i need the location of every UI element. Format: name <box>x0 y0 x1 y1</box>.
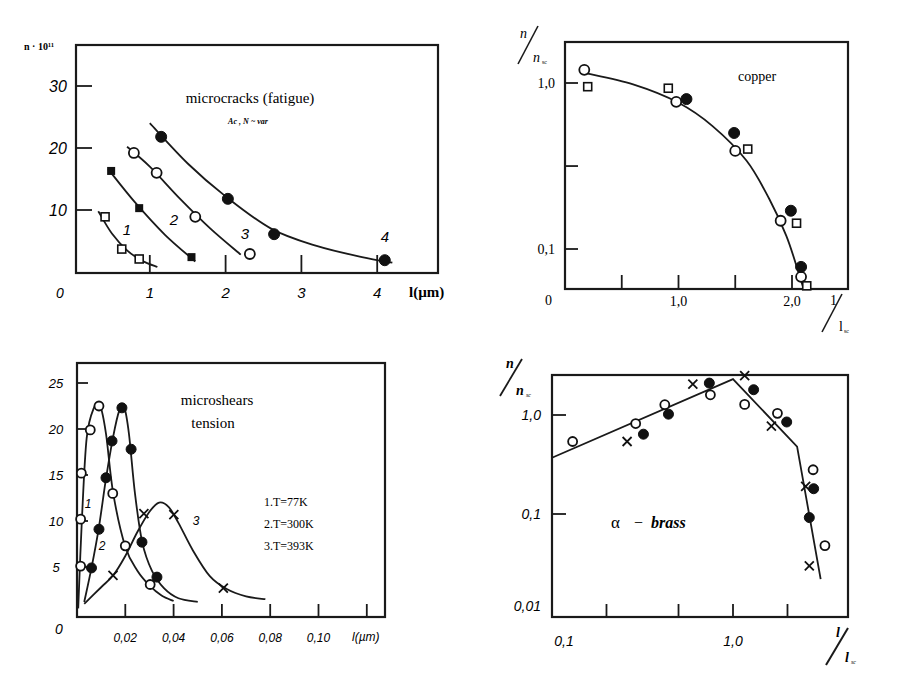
marker-open-circle <box>579 65 589 75</box>
curve-label: 2 <box>98 539 106 553</box>
tick-label: 25 <box>48 376 64 391</box>
axis-ticks <box>565 83 792 289</box>
tick-label: 1,0 <box>538 76 556 91</box>
marker-open-circle <box>121 541 130 550</box>
svg-text:n: n <box>516 383 524 398</box>
svg-text:n: n <box>506 356 514 371</box>
marker-cross <box>767 422 776 431</box>
legend-item-2: 2.T=300K <box>264 517 314 531</box>
svg-text:l: l <box>836 625 840 640</box>
curve-label: 1 <box>85 497 92 511</box>
chart-microcracks: 01234102030 1234 n · 10¹¹ microcracks (f… <box>0 41 444 301</box>
tick-label: 1 <box>146 284 154 301</box>
tick-label: 1,0 <box>522 407 542 423</box>
tick-label: 1,0 <box>670 294 688 309</box>
x-axis-label: l l sc <box>826 625 856 665</box>
figure-canvas: 01234102030 1234 n · 10¹¹ microcracks (f… <box>0 0 899 696</box>
svg-text:n: n <box>520 26 527 41</box>
plot-frame <box>565 42 848 289</box>
curve-label: 1 <box>123 221 131 238</box>
marker-open-circle <box>146 580 155 589</box>
marker-filled-circle <box>729 127 740 138</box>
origin-label: 0 <box>56 285 64 301</box>
marker-open-square <box>664 84 672 92</box>
marker-open-circle <box>190 212 200 222</box>
marker-open-circle <box>77 469 86 478</box>
tick-label: 30 <box>49 78 67 95</box>
marker-open-circle <box>568 437 577 446</box>
tick-label: 0,02 <box>114 631 138 645</box>
marker-filled-circle <box>94 524 104 534</box>
marker-filled-circle <box>156 131 167 142</box>
fit-curves <box>78 403 265 609</box>
svg-text:brass: brass <box>651 514 686 531</box>
marker-open-circle <box>86 425 95 434</box>
marker-filled-circle <box>809 484 819 494</box>
chart-copper: 1,02,00,11,0 copper 0 n n sc 1 l sc <box>518 26 849 334</box>
marker-cross <box>688 380 697 389</box>
tick-label: 0,04 <box>162 631 186 645</box>
marker-cross <box>623 437 632 446</box>
svg-text:α: α <box>611 513 620 532</box>
marker-open-circle <box>820 541 829 550</box>
chart-title: microshears <box>181 392 254 408</box>
tick-label: 20 <box>48 140 67 157</box>
marker-open-square <box>101 213 109 221</box>
svg-text:sc: sc <box>851 659 856 665</box>
fit-curve <box>84 502 265 603</box>
data-points <box>579 65 810 290</box>
tick-label: 15 <box>49 468 64 483</box>
marker-open-square <box>803 282 811 290</box>
curve-label: 3 <box>241 225 250 242</box>
marker-filled-circle <box>749 385 759 395</box>
fit-curve-4 <box>150 123 393 263</box>
tick-label: 10 <box>49 514 64 529</box>
chart-subtitle: Ac , N ~ var <box>227 117 269 126</box>
chart-title: α − brass <box>611 513 686 532</box>
svg-text:l: l <box>839 319 843 334</box>
marker-open-square <box>118 245 126 253</box>
tick-label: 0,08 <box>259 631 283 645</box>
marker-open-circle <box>773 409 782 418</box>
curve-label: 2 <box>169 211 179 228</box>
x-axis-label: l(µm) <box>352 630 380 644</box>
chart-title: microcracks (fatigue) <box>186 90 315 107</box>
tick-label: 4 <box>373 284 381 301</box>
fit-curve <box>584 73 803 288</box>
curve-label: 4 <box>381 228 389 245</box>
marker-filled-circle <box>107 436 117 446</box>
data-points <box>101 131 390 265</box>
fit-curves <box>98 123 392 267</box>
marker-filled-circle <box>117 403 127 413</box>
marker-open-circle <box>809 465 818 474</box>
chart-alpha-brass: 0,11,00,010,11,0 α − brass n n sc l l sc <box>500 356 856 665</box>
marker-open-square <box>584 83 592 91</box>
marker-filled-circle <box>269 229 280 240</box>
marker-open-circle <box>776 216 786 226</box>
svg-text:sc: sc <box>526 392 531 398</box>
marker-open-circle <box>76 562 85 571</box>
marker-open-circle <box>796 272 806 282</box>
marker-filled-circle <box>86 563 96 573</box>
marker-open-circle <box>730 146 740 156</box>
marker-open-circle <box>76 515 85 524</box>
tick-label: 2 <box>220 284 230 301</box>
tick-label: 0,1 <box>522 506 541 522</box>
marker-filled-circle <box>137 537 147 547</box>
marker-open-circle <box>706 390 715 399</box>
legend: 1.T=77K 2.T=300K 3.T=393K <box>264 495 314 553</box>
marker-filled-circle <box>222 193 233 204</box>
marker-open-circle <box>671 97 681 107</box>
axis-tick-labels: 01234102030 <box>0 78 381 301</box>
chart-microshears: 0,020,040,060,080,10510152025 123 micros… <box>48 363 385 645</box>
y-axis-label: n · 10¹¹ <box>24 41 54 52</box>
marker-filled-circle <box>638 429 648 439</box>
origin-label: 0 <box>545 293 552 308</box>
tick-label: 0,10 <box>307 631 331 645</box>
marker-cross <box>805 561 814 570</box>
marker-filled-circle <box>796 261 807 272</box>
marker-open-circle <box>94 402 103 411</box>
curve-label: 3 <box>193 514 200 528</box>
marker-filled-circle <box>704 378 714 388</box>
marker-open-circle <box>660 400 669 409</box>
